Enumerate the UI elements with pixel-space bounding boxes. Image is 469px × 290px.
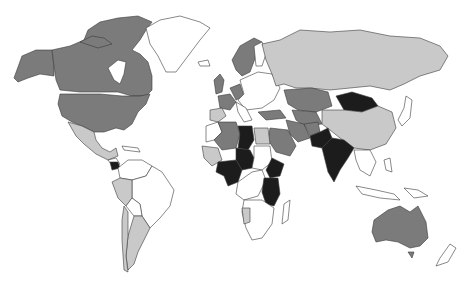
oceania — [372, 206, 456, 266]
region-australia — [372, 206, 428, 248]
region-namibia — [242, 208, 250, 224]
south-america — [112, 160, 174, 272]
region-japan — [398, 96, 412, 126]
region-indonesia — [356, 186, 400, 200]
region-france — [218, 94, 236, 110]
region-argentina — [126, 216, 150, 270]
region-madagascar — [282, 200, 290, 224]
region-papua — [404, 188, 428, 198]
region-india — [322, 138, 354, 182]
north-america — [14, 16, 210, 170]
world-choropleth-map — [0, 0, 469, 290]
region-philippines — [384, 158, 392, 172]
region-spain — [210, 108, 226, 122]
asia — [262, 30, 448, 200]
region-iceland — [198, 60, 210, 66]
region-united-kingdom — [214, 74, 224, 94]
region-tasmania — [408, 252, 414, 258]
region-kazakhstan — [284, 88, 332, 112]
region-new-zealand — [436, 244, 456, 266]
region-caribbean — [122, 146, 140, 152]
region-egypt — [254, 128, 270, 144]
region-southeast-asia — [354, 150, 376, 176]
region-canada — [52, 16, 152, 96]
region-russia — [262, 30, 448, 90]
region-alaska — [14, 50, 54, 82]
region-turkey — [258, 110, 286, 120]
region-libya — [238, 126, 254, 150]
